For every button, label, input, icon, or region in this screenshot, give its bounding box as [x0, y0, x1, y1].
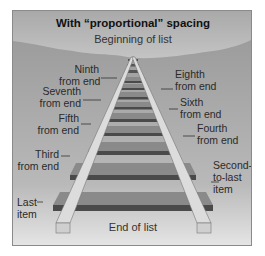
label-sixth-from-end: Sixth from end — [180, 96, 221, 120]
diagram-title: With “proportional” spacing — [13, 17, 252, 29]
diagram-frame: With “proportional” spacing Beginning of… — [12, 10, 252, 246]
label-seventh-from-end: Seventh from end — [35, 85, 81, 109]
label-second-to-last-item: Second- to-last item — [213, 159, 252, 195]
end-of-list-label: End of list — [13, 221, 252, 233]
beginning-of-list-label: Beginning of list — [13, 33, 252, 45]
label-fourth-from-end: Fourth from end — [197, 122, 238, 146]
label-fifth-from-end: Fifth from end — [33, 112, 79, 136]
label-eighth-from-end: Eighth from end — [175, 68, 216, 92]
label-third-from-end: Third from end — [13, 148, 59, 172]
label-last-item: Last item — [17, 196, 37, 220]
label-ninth-from-end: Ninth from end — [59, 63, 99, 87]
